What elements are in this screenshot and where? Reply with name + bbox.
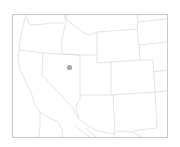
map-frame [13, 15, 168, 138]
location-marker[interactable] [67, 65, 72, 70]
map[interactable] [0, 0, 180, 147]
